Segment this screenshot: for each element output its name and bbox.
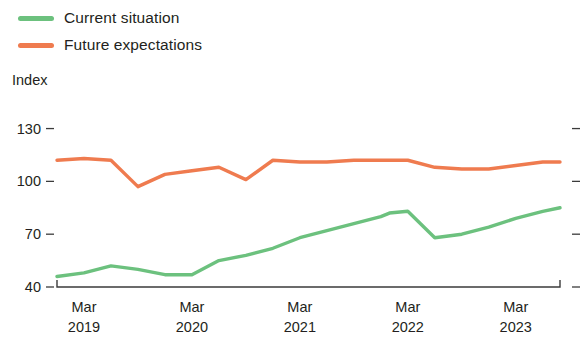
x-tick-label-year: 2023 [500, 319, 532, 335]
series-lines [57, 158, 560, 276]
x-tick-label-year: 2020 [176, 319, 208, 335]
x-tick-label-month: Mar [287, 299, 312, 315]
x-tick-label-year: 2022 [392, 319, 424, 335]
x-axis-ticks: Mar2019Mar2020Mar2021Mar2022Mar2023 [68, 299, 532, 335]
x-tick-label-month: Mar [179, 299, 204, 315]
y-tick-label: 40 [25, 279, 41, 295]
series-line-current-situation [57, 208, 560, 277]
y-tick-label: 70 [25, 226, 41, 242]
x-tick-label-month: Mar [395, 299, 420, 315]
x-tick-label-year: 2019 [68, 319, 100, 335]
y-tick-label: 100 [17, 173, 41, 189]
series-line-future-expectations [57, 158, 560, 186]
index-line-chart: Current situation Future expectations In… [0, 0, 585, 343]
x-tick-label-month: Mar [71, 299, 96, 315]
x-tick-label-month: Mar [503, 299, 528, 315]
y-tick-label: 130 [17, 121, 41, 137]
chart-plot-area: 4070100130 Mar2019Mar2020Mar2021Mar2022M… [0, 0, 585, 343]
axis-lines [57, 280, 560, 287]
x-tick-label-year: 2021 [284, 319, 316, 335]
